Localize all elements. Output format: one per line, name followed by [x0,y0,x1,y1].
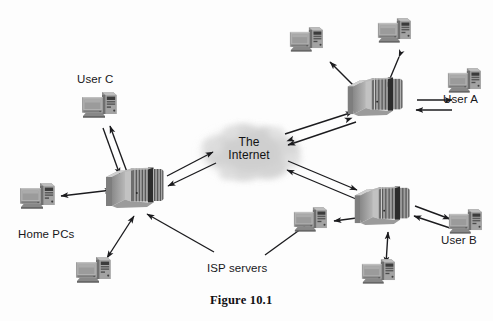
user-b-label: User B [441,234,477,246]
link-homebottom-routerleft [107,216,134,258]
link-cloud-routertopright-out2 [285,112,353,134]
user-c-label: User C [77,73,113,85]
pc-mid-left[interactable] [294,207,327,232]
router-top-right[interactable] [348,77,403,116]
link-cloud-routerleft-in [168,163,216,186]
leader-isp-to-routerleft [147,214,214,252]
pc-user-c[interactable] [82,92,117,118]
router-bottom-right[interactable] [355,186,410,225]
internet-label-line2: Internet [223,149,275,162]
link-routertopright-cloud-in [288,122,356,145]
network-diagram-figure: The Internet User C User A User B Home P… [0,0,493,321]
user-a-label: User A [443,93,478,105]
link-userc-routerleft-out [103,128,120,175]
pc-home-bottom[interactable] [76,257,111,283]
pc-top-right[interactable] [378,18,411,43]
home-pcs-label: Home PCs [18,228,74,240]
internet-cloud-label: The Internet [223,136,275,162]
isp-servers-label: ISP servers [207,262,267,274]
pc-user-a[interactable] [448,68,481,93]
router-left[interactable] [106,168,164,209]
link-userb-routerbottomright-in [414,216,450,228]
pc-home-left[interactable] [20,183,55,209]
link-userc-routerleft-in [110,126,127,172]
pc-top-far-left[interactable] [290,27,323,52]
link-homeleft-routerleft [61,190,112,196]
link-routerleft-cloud-out [167,152,213,176]
link-userb-routerbottomright-out [415,206,450,219]
figure-caption: Figure 10.1 [210,293,272,308]
pc-user-b[interactable] [449,209,482,234]
pc-bottom-center[interactable] [362,259,395,284]
